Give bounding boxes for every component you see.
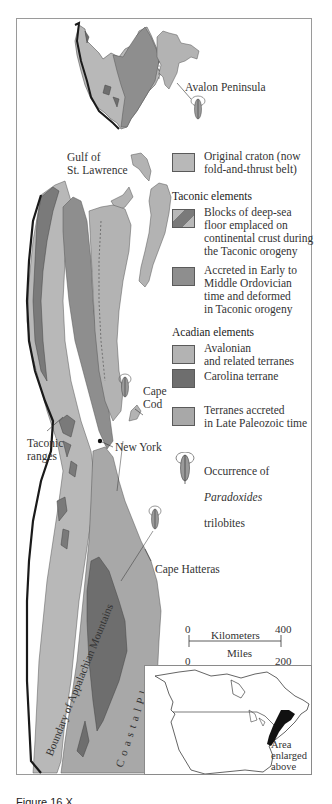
new-york-marker: [98, 439, 102, 443]
trilobite-genus: Paradoxides: [204, 491, 262, 503]
figure-caption: Figure 16.X: [16, 796, 73, 804]
label-cape-hatteras: Cape Hatteras: [155, 563, 220, 576]
label-avalon-peninsula: Avalon Peninsula: [185, 81, 266, 94]
scale-km-start: 0: [185, 623, 191, 635]
label-taconic-ranges: Taconic ranges: [27, 437, 63, 462]
scale-km-end: 400: [275, 623, 292, 635]
trilobite-icon: [149, 506, 161, 529]
swatch-carolina: [172, 369, 195, 388]
label-cape-cod: Cape Cod: [143, 385, 167, 410]
trilobite-icon: [174, 452, 196, 488]
scale-mi-unit: Miles: [227, 647, 252, 659]
legend-heading-acadian: Acadian elements: [172, 326, 254, 338]
trilobite-icon: [191, 96, 205, 119]
inset-label: Area enlarged above: [271, 739, 307, 772]
trilobite-line3: trilobites: [204, 517, 245, 529]
trilobite-line1: Occurrence of: [204, 465, 269, 477]
swatch-late-paleozoic: [172, 407, 195, 426]
label-new-york: New York: [115, 441, 162, 454]
swatch-original-craton: [172, 153, 195, 172]
swatch-ordovician-accreted: [172, 267, 195, 286]
scale-km-unit: Kilometers: [211, 629, 260, 641]
swatch-deep-sea-floor: [172, 209, 195, 228]
inset-locator-map: Area enlarged above: [144, 665, 312, 775]
label-gulf-of-st-lawrence: Gulf of St. Lawrence: [67, 151, 128, 176]
legend-heading-taconic: Taconic elements: [172, 190, 252, 202]
swatch-avalonian: [172, 345, 195, 364]
newfoundland-landmass: [75, 23, 199, 129]
map-figure-frame: Avalon Peninsula Gulf of St. Lawrence Ca…: [16, 18, 312, 775]
